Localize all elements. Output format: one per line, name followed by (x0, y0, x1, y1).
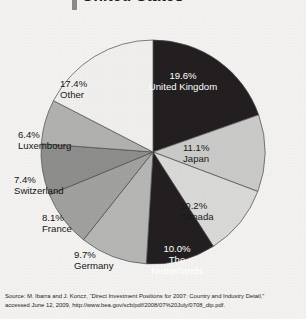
slice-percent: 7.4% (14, 174, 96, 185)
slice-percent: 9.7% (74, 249, 144, 260)
slice-percent: 10.2% (180, 200, 254, 211)
slice-percent: 19.6% (131, 70, 235, 81)
slice-percent: 17.4% (60, 78, 130, 89)
slice-label-germany: 9.7% Germany (74, 249, 144, 271)
slice-percent: 8.1% (42, 212, 108, 223)
slice-label-luxembourg: 6.4% Luxembourg (18, 129, 104, 151)
slice-label-france: 8.1% France (42, 212, 108, 234)
slice-name: Luxembourg (18, 140, 104, 151)
slice-percent: 11.1% (183, 142, 255, 153)
slice-name: Switzerland (14, 185, 96, 196)
source-line-1: Source: M. Ibarra and J. Koncz, “Direct … (5, 292, 303, 301)
figure-page: United States 19.6% United Kingdom 11.1%… (0, 0, 306, 319)
pie-chart: 19.6% United Kingdom 11.1% Japan 10.2% C… (0, 14, 306, 288)
source-citation: Source: M. Ibarra and J. Koncz, “Direct … (5, 292, 303, 310)
slice-name-line2: Netherlands (137, 265, 217, 276)
slice-name-line1: The (137, 254, 217, 265)
slice-label-the-netherlands: 10.0% The Netherlands (137, 243, 217, 276)
slice-name: France (42, 223, 108, 234)
slice-percent: 6.4% (18, 129, 104, 140)
slice-label-united-kingdom: 19.6% United Kingdom (131, 70, 235, 92)
slice-label-switzerland: 7.4% Switzerland (14, 174, 96, 196)
slice-name: Germany (74, 260, 144, 271)
slice-name: United Kingdom (131, 81, 235, 92)
figure-title-band: United States (0, 0, 306, 14)
slice-label-japan: 11.1% Japan (183, 142, 255, 164)
slice-name: Other (60, 89, 130, 100)
slice-percent: 10.0% (137, 243, 217, 254)
source-line-2: accessed June 12, 2009, http://www.bea.g… (5, 301, 303, 310)
slice-name: Canada (180, 211, 254, 222)
page-title: United States (82, 0, 184, 5)
slice-name: Japan (183, 153, 255, 164)
slice-label-canada: 10.2% Canada (180, 200, 254, 222)
title-accent-bar (72, 0, 77, 10)
slice-label-other: 17.4% Other (60, 78, 130, 100)
